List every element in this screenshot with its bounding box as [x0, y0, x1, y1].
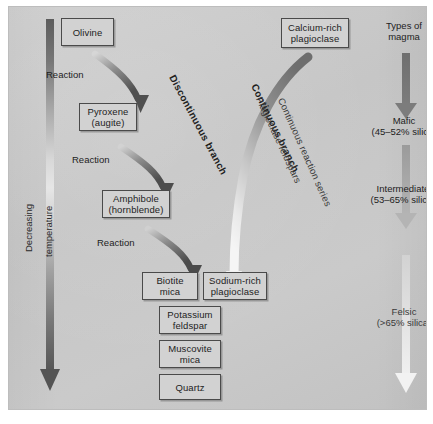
mineral-box-olivine: Olivine — [61, 18, 114, 46]
diagram-panel: Decreasing temperature — [8, 6, 427, 410]
magma-type-mafic-name: Mafic — [351, 115, 427, 126]
magma-type-felsic-silica: (>65% silica) — [351, 317, 427, 328]
magma-arrowhead-2-icon — [395, 213, 417, 229]
potassium-feldspar-line2: feldspar — [167, 320, 212, 331]
mineral-box-amphibole: Amphibole (hornblende) — [102, 190, 170, 218]
magma-arrow-segment-1 — [402, 53, 410, 105]
reaction-label-1: Reaction — [46, 69, 84, 80]
olivine-line1: Olivine — [73, 27, 103, 38]
pyroxene-line2: (augite) — [88, 117, 129, 128]
mineral-box-pyroxene: Pyroxene (augite) — [79, 103, 137, 131]
amphibole-line1: Amphibole — [108, 193, 163, 204]
muscovite-line2: mica — [168, 354, 212, 365]
quartz-line1: Quartz — [175, 382, 204, 393]
types-of-magma-heading-line2: magma — [364, 31, 427, 42]
mineral-box-sodium-rich-plagioclase: Sodium-rich plagioclase — [203, 272, 267, 300]
mineral-box-potassium-feldspar: Potassium feldspar — [159, 306, 221, 334]
muscovite-line1: Muscovite — [168, 343, 212, 354]
pyroxene-line1: Pyroxene — [88, 106, 129, 117]
biotite-line2: mica — [156, 286, 183, 297]
calcium-plagioclase-line1: Calcium-rich — [288, 22, 342, 33]
magma-type-mafic-silica: (45–52% silica) — [351, 126, 427, 137]
temperature-label: temperature — [43, 206, 54, 257]
bowens-reaction-series-figure: Decreasing temperature — [0, 0, 433, 424]
sodium-plagioclase-line1: Sodium-rich — [209, 275, 261, 286]
sodium-plagioclase-line2: plagioclase — [209, 286, 261, 297]
biotite-line1: Biotite — [156, 275, 183, 286]
decreasing-label: Decreasing — [23, 204, 34, 252]
mineral-box-calcium-rich-plagioclase: Calcium-rich plagioclase — [281, 18, 349, 48]
mineral-box-biotite-mica: Biotite mica — [142, 272, 198, 300]
reaction-label-2: Reaction — [72, 154, 110, 165]
reaction-label-3: Reaction — [97, 237, 135, 248]
mineral-box-muscovite-mica: Muscovite mica — [159, 340, 221, 368]
potassium-feldspar-line1: Potassium — [167, 309, 212, 320]
temperature-arrowhead-icon — [40, 369, 60, 391]
magma-arrowhead-3-icon — [395, 373, 417, 393]
magma-type-intermediate-name: Intermediate — [345, 183, 427, 194]
amphibole-line2: (hornblende) — [108, 204, 163, 215]
calcium-plagioclase-line2: plagioclase — [288, 33, 342, 44]
magma-type-felsic-name: Felsic — [351, 306, 427, 317]
types-of-magma-heading-line1: Types of — [364, 20, 427, 31]
magma-silica-gradient-arrow — [395, 53, 417, 405]
discontinuous-branch-label: Discontinuous branch — [167, 73, 229, 177]
magma-type-intermediate-silica: (53–65% silica) — [345, 194, 427, 205]
mineral-box-quartz: Quartz — [159, 374, 221, 400]
